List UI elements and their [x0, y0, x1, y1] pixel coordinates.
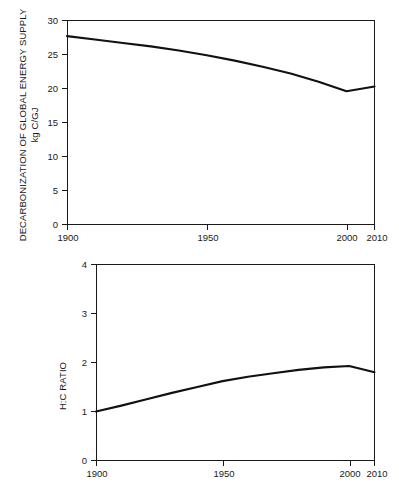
x-ticks-decarbonization — [68, 225, 375, 230]
figure-panel: DECARBONIZATION OF GLOBAL ENERGY SUPPLY … — [0, 0, 399, 497]
y-tick-label-0: 0 — [53, 219, 58, 230]
x-tick-label-2000-top: 2000 — [336, 232, 357, 243]
y-tick-label-30: 30 — [47, 15, 58, 26]
data-line-decarbonization — [67, 36, 375, 91]
y-tick-label-15: 15 — [47, 117, 58, 128]
x-tick-label-2010-bottom: 2010 — [366, 468, 387, 479]
y-axis-units-decarbonization: kg C/GJ — [29, 107, 40, 142]
y-tick-label-10: 10 — [47, 151, 58, 162]
chart-hc-ratio: H:C RATIO 4 3 2 1 0 19 — [57, 259, 388, 479]
y-axis-title-hc-ratio: H:C RATIO — [57, 362, 68, 410]
chart-svg: DECARBONIZATION OF GLOBAL ENERGY SUPPLY … — [0, 0, 399, 497]
y-tick-label-25: 25 — [47, 49, 58, 60]
y-tick-label-5: 5 — [53, 185, 58, 196]
y-ticks-decarbonization — [62, 21, 67, 225]
y-axis-title-decarbonization: DECARBONIZATION OF GLOBAL ENERGY SUPPLY — [17, 8, 28, 241]
x-tick-label-2010-top: 2010 — [366, 232, 387, 243]
x-tick-label-1900-top: 1900 — [57, 232, 78, 243]
x-tick-label-1900-bottom: 1900 — [86, 468, 107, 479]
x-tick-label-1950-bottom: 1950 — [213, 468, 234, 479]
x-tick-label-2000-bottom: 2000 — [339, 468, 360, 479]
y-tick-label-3: 3 — [82, 308, 87, 319]
y-tick-label-4: 4 — [82, 259, 87, 270]
y-tick-label-20: 20 — [47, 83, 58, 94]
data-line-hc-ratio — [96, 366, 375, 412]
y-tick-label-1: 1 — [82, 406, 87, 417]
y-tick-label-2: 2 — [82, 357, 87, 368]
x-tick-label-1950-top: 1950 — [197, 232, 218, 243]
y-ticks-hc-ratio — [91, 265, 96, 461]
y-tick-label-0-hc: 0 — [82, 455, 87, 466]
chart-decarbonization: DECARBONIZATION OF GLOBAL ENERGY SUPPLY … — [17, 8, 388, 243]
x-ticks-hc-ratio — [97, 461, 375, 466]
